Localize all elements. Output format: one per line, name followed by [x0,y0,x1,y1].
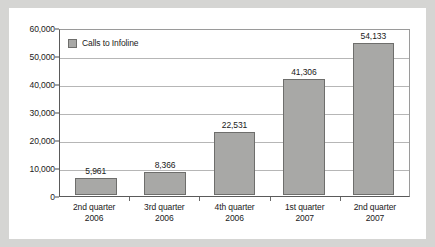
y-axis-tick-label: 20,000 [30,136,55,146]
bar-value-label: 41,306 [291,67,316,77]
y-axis-tick-label: 10,000 [30,164,55,174]
x-axis-category-line1: 2nd quarter [340,202,410,213]
x-axis-category-line2: 2006 [59,213,129,224]
x-axis-category-line1: 2nd quarter [59,202,129,213]
y-axis: 010,00020,00030,00040,00050,00060,000 [9,29,55,197]
bar-slot: 41,306 [269,30,338,195]
bar-slot: 5,961 [61,30,130,195]
x-axis-tick [340,197,341,201]
y-axis-tick-label: 40,000 [30,80,55,90]
x-axis-tick [199,197,200,201]
chart-legend: Calls to Infoline [68,38,138,48]
chart-card: 010,00020,00030,00040,00050,00060,000 5,… [9,8,426,239]
x-axis-tick [270,197,271,201]
x-axis-category-label: 2nd quarter2007 [340,202,410,224]
legend-swatch-icon [68,39,77,48]
plot-area: 5,9618,36622,53141,30654,133 [59,29,410,197]
y-axis-tick-label: 50,000 [30,52,55,62]
bar-series: 5,9618,36622,53141,30654,133 [61,30,408,195]
x-axis-category-line1: 3rd quarter [129,202,199,213]
x-axis-category-label: 4th quarter2006 [199,202,269,224]
bar-value-label: 54,133 [361,31,386,41]
bar: 8,366 [144,172,186,195]
bar: 5,961 [75,178,117,195]
bar: 54,133 [353,43,395,195]
x-axis-category-line2: 2006 [199,213,269,224]
bar: 41,306 [283,79,325,195]
x-axis-category-line2: 2007 [270,213,340,224]
bar-slot: 54,133 [339,30,408,195]
x-axis-category-label: 1st quarter2007 [270,202,340,224]
bar-slot: 22,531 [200,30,269,195]
x-axis-category-label: 3rd quarter2006 [129,202,199,224]
y-axis-tick-label: 60,000 [30,24,55,34]
bar-value-label: 22,531 [222,120,247,130]
x-axis-ticks [59,197,410,201]
chart-page: 010,00020,00030,00040,00050,00060,000 5,… [0,0,435,247]
x-axis-category-line1: 1st quarter [270,202,340,213]
x-axis-tick [129,197,130,201]
x-axis-labels: 2nd quarter20063rd quarter20064th quarte… [59,202,410,224]
bar-value-label: 8,366 [155,160,176,170]
y-axis-tick-label: 30,000 [30,108,55,118]
x-axis-category-line1: 4th quarter [199,202,269,213]
x-axis-category-line2: 2006 [129,213,199,224]
x-axis-category-line2: 2007 [340,213,410,224]
x-axis-category-label: 2nd quarter2006 [59,202,129,224]
bar: 22,531 [214,132,256,195]
bar-value-label: 5,961 [85,166,106,176]
legend-item-label: Calls to Infoline [82,38,138,48]
bar-slot: 8,366 [130,30,199,195]
